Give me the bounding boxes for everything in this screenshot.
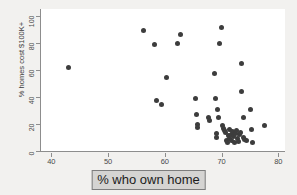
scatter-point	[262, 123, 267, 128]
scatter-point	[236, 139, 241, 144]
x-tick-label: 60	[161, 158, 169, 166]
scatter-point	[175, 41, 180, 46]
scatter-point	[214, 135, 219, 140]
scatter-point	[244, 138, 249, 143]
scatter-point	[207, 118, 212, 123]
scatter-point	[66, 65, 71, 70]
y-tick-mark	[36, 151, 40, 152]
scatter-point	[250, 140, 255, 145]
y-tick-mark	[36, 16, 40, 17]
x-tick-label: 40	[47, 158, 55, 166]
scatter-point	[216, 115, 221, 120]
scatter-point	[193, 96, 198, 101]
scatter-point	[212, 71, 217, 76]
y-tick-mark	[36, 97, 40, 98]
scatter-point	[194, 112, 199, 117]
scatter-plot-screenshot: % homes cost $100K+ % who own home 02040…	[0, 0, 297, 195]
scatter-point	[217, 41, 222, 46]
y-axis-title-wrap: % homes cost $100K+	[9, 9, 23, 152]
scatter-point	[219, 25, 224, 30]
scatter-point	[195, 125, 200, 130]
y-tick-label-text: 80	[29, 43, 36, 51]
x-tick-label: 80	[274, 158, 282, 166]
scatter-point	[238, 130, 243, 135]
y-tick-mark	[36, 43, 40, 44]
scatter-point	[152, 42, 157, 47]
y-tick-mark	[36, 70, 40, 71]
scatter-point	[239, 61, 244, 66]
scatter-point	[213, 96, 218, 101]
y-tick-label-text: 40	[29, 97, 36, 105]
scatter-point	[215, 107, 220, 112]
plot-area	[40, 9, 285, 152]
scatter-canvas	[41, 9, 285, 151]
y-tick-mark	[36, 124, 40, 125]
x-tick-label: 70	[217, 158, 225, 166]
scatter-point	[164, 75, 169, 80]
y-tick-label-text: 20	[29, 124, 36, 132]
scatter-point	[248, 107, 253, 112]
y-tick-label-text: 60	[29, 70, 36, 78]
scatter-point	[154, 98, 159, 103]
scatter-point	[241, 115, 246, 120]
y-tick-label-text: 0	[29, 151, 36, 155]
scatter-point	[141, 28, 146, 33]
scatter-point	[178, 32, 183, 37]
x-axis-title: % who own home	[91, 170, 206, 190]
scatter-point	[159, 102, 164, 107]
y-tick-label-text: 100	[29, 16, 36, 28]
y-axis-title: % homes cost $100K+	[17, 5, 26, 115]
scatter-point	[239, 89, 244, 94]
x-tick-label: 50	[104, 158, 112, 166]
scatter-point	[249, 127, 254, 132]
